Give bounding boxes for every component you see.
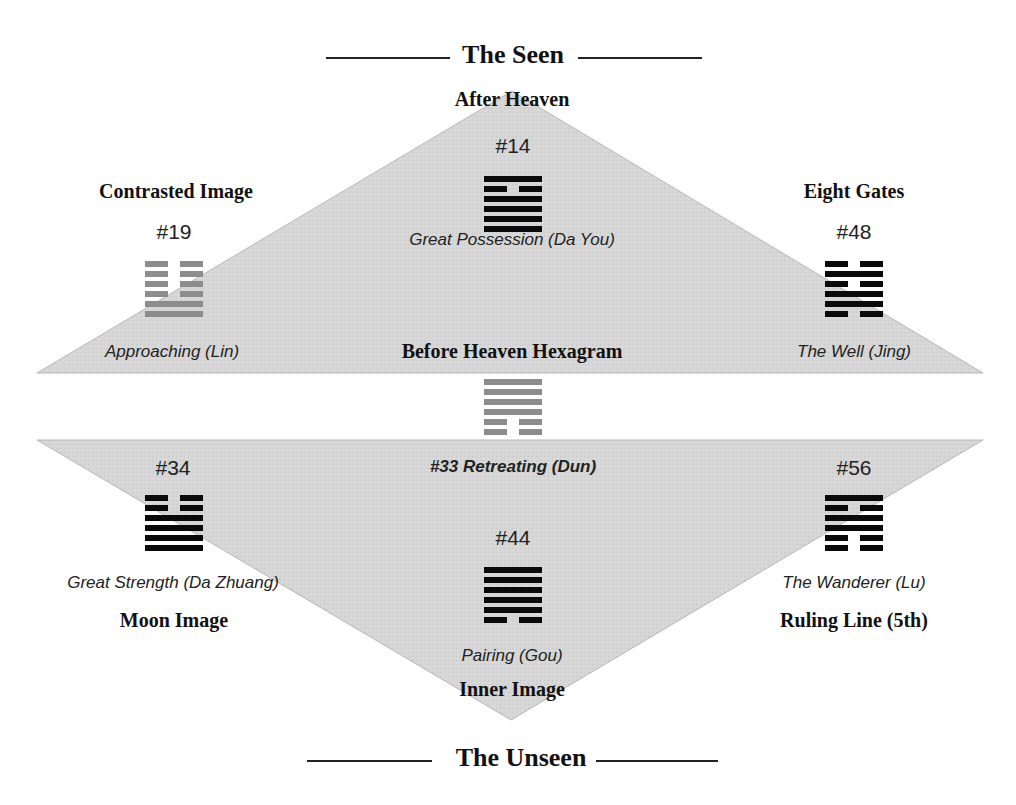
eight-gates-name: The Well (Jing)	[797, 342, 911, 362]
broken-line	[145, 261, 203, 267]
footer-title: The Unseen	[456, 743, 587, 773]
hexagram-44-icon	[484, 567, 542, 627]
broken-line	[825, 261, 883, 267]
solid-line	[145, 545, 203, 551]
ruling-line-label: Ruling Line (5th)	[780, 609, 928, 632]
moon-image-number: #34	[155, 456, 190, 480]
broken-line	[484, 419, 542, 425]
broken-line	[145, 281, 203, 287]
inner-image-label: Inner Image	[459, 678, 565, 701]
before-heaven-name: #33 Retreating (Dun)	[430, 457, 596, 477]
solid-line	[484, 409, 542, 415]
broken-line	[484, 617, 542, 623]
solid-line	[145, 535, 203, 541]
solid-line	[484, 216, 542, 222]
solid-line	[484, 607, 542, 613]
hexagram-14-icon	[484, 176, 542, 236]
solid-line	[145, 525, 203, 531]
contrasted-image-name: Approaching (Lin)	[105, 342, 239, 362]
footer-rule-left	[307, 760, 432, 762]
broken-line	[825, 311, 883, 317]
broken-line	[145, 505, 203, 511]
contrasted-image-number: #19	[156, 220, 191, 244]
solid-line	[145, 311, 203, 317]
header-title: The Seen	[462, 40, 564, 70]
moon-image-label: Moon Image	[120, 609, 228, 632]
broken-line	[145, 271, 203, 277]
eight-gates-label: Eight Gates	[804, 180, 905, 203]
solid-line	[825, 301, 883, 307]
footer-rule-right	[596, 760, 718, 762]
hexagram-56-icon	[825, 495, 883, 555]
eight-gates-number: #48	[836, 220, 871, 244]
contrasted-image-label: Contrasted Image	[99, 180, 253, 203]
broken-line	[145, 291, 203, 297]
after-heaven-name: Great Possession (Da You)	[409, 230, 615, 250]
hexagram-33-icon	[484, 379, 542, 439]
inner-image-name: Pairing (Gou)	[461, 646, 562, 666]
after-heaven-number: #14	[495, 134, 530, 158]
solid-line	[825, 515, 883, 521]
solid-line	[825, 271, 883, 277]
solid-line	[484, 399, 542, 405]
hexagram-19-icon	[145, 261, 203, 321]
solid-line	[825, 495, 883, 501]
broken-line	[484, 429, 542, 435]
solid-line	[484, 587, 542, 593]
broken-line	[484, 186, 542, 192]
hexagram-48-icon	[825, 261, 883, 321]
ruling-line-number: #56	[836, 456, 871, 480]
solid-line	[484, 206, 542, 212]
solid-line	[825, 291, 883, 297]
broken-line	[825, 505, 883, 511]
solid-line	[145, 515, 203, 521]
inner-image-number: #44	[495, 526, 530, 550]
header-rule-right	[578, 57, 702, 59]
solid-line	[484, 379, 542, 385]
solid-line	[484, 389, 542, 395]
solid-line	[145, 301, 203, 307]
solid-line	[825, 525, 883, 531]
solid-line	[484, 577, 542, 583]
solid-line	[484, 567, 542, 573]
moon-image-name: Great Strength (Da Zhuang)	[67, 573, 279, 593]
after-heaven-label: After Heaven	[455, 88, 570, 111]
broken-line	[145, 495, 203, 501]
solid-line	[484, 176, 542, 182]
solid-line	[484, 196, 542, 202]
header-rule-left	[326, 57, 450, 59]
solid-line	[484, 597, 542, 603]
hexagram-34-icon	[145, 495, 203, 555]
broken-line	[825, 281, 883, 287]
ruling-line-name: The Wanderer (Lu)	[782, 573, 925, 593]
broken-line	[825, 545, 883, 551]
broken-line	[825, 535, 883, 541]
before-heaven-label: Before Heaven Hexagram	[402, 340, 623, 363]
